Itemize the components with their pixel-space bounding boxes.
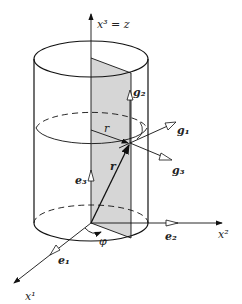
g3-label: g₃ [172,164,185,177]
g3-arrowhead [159,153,172,160]
axis3-label: x³ = z [97,18,130,31]
e3-label: e₃ [75,174,87,187]
e2-arrowhead [166,220,178,226]
phi-arc [85,228,101,233]
g2-label: g₂ [133,86,146,99]
g1-label: g₁ [177,124,190,137]
g1-arrowhead [165,122,176,130]
axis1-label: x¹ [25,290,36,303]
tangent-arc [137,122,142,139]
phi-label: φ [99,235,107,248]
e2-label: e₂ [165,230,177,243]
axis2-label: x² [218,228,229,241]
e1-label: e₁ [58,254,70,267]
cylinder-diagram: x³ = z x² x¹ g₂ g₁ g₃ e₃ e₂ e₁ r r φ [0,0,242,304]
r-radius-label: r [104,122,110,135]
g1-vector [130,124,172,143]
